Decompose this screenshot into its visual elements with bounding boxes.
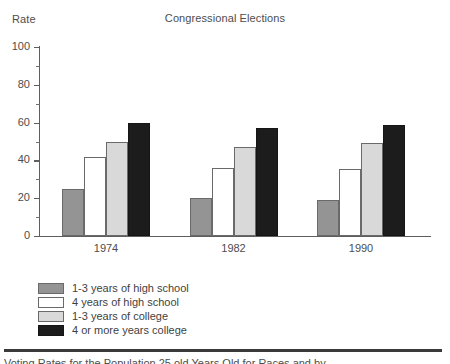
bar-1990-series-3 [383,125,405,236]
legend-swatch-icon [38,297,64,308]
y-tick-label: 60 [18,116,30,128]
bar-1990-series-1 [339,169,361,236]
legend-item-3: 4 or more years college [38,323,189,337]
x-tick-label-1982: 1982 [221,242,245,254]
legend-item-2: 1-3 years of college [38,309,189,323]
legend-label: 1-3 years of college [72,310,168,322]
legend-swatch-icon [38,283,64,294]
legend-swatch-icon [38,325,64,336]
x-tick-label-1990: 1990 [349,242,373,254]
bar-1974-series-3 [128,123,150,236]
footer-caption: Voting Rates for the Population 25 old Y… [4,357,446,364]
bar-1982-series-2 [234,147,256,236]
bar-1974-series-1 [84,157,106,236]
bar-1990-series-2 [361,143,383,236]
legend-label: 1-3 years of high school [72,282,189,294]
x-axis-line [39,236,431,237]
legend-item-0: 1-3 years of high school [38,281,189,295]
bar-chart-figure: Rate Congressional Elections 02040608010… [0,0,450,364]
y-tick-label: 40 [18,153,30,165]
y-tick-label: 80 [18,78,30,90]
y-tick-label: 100 [12,40,30,52]
chart-title: Congressional Elections [0,12,450,24]
chart-legend: 1-3 years of high school4 years of high … [38,281,189,337]
bar-1982-series-0 [190,198,212,236]
y-tick-label: 0 [24,229,30,241]
x-tick-label-1974: 1974 [94,242,118,254]
legend-label: 4 or more years college [72,324,187,336]
legend-label: 4 years of high school [72,296,179,308]
plot-area [40,47,430,236]
y-tick-mark [34,236,40,237]
bar-1982-series-1 [212,168,234,236]
footer-divider [4,349,442,352]
y-tick-label: 20 [18,191,30,203]
bar-1974-series-0 [62,189,84,236]
bar-1982-series-3 [256,128,278,236]
legend-swatch-icon [38,311,64,322]
bar-1974-series-2 [106,142,128,237]
bar-1990-series-0 [317,200,339,236]
legend-item-1: 4 years of high school [38,295,189,309]
